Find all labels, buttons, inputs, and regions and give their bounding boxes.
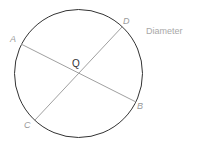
- diameter-caption: Diameter: [146, 27, 183, 36]
- point-label-a: A: [10, 35, 16, 44]
- point-label-d: D: [123, 17, 130, 26]
- point-label-c: C: [24, 121, 31, 130]
- point-label-b: B: [137, 102, 143, 111]
- diameter-cd: [35, 27, 122, 120]
- center-label-q: Q: [72, 59, 80, 69]
